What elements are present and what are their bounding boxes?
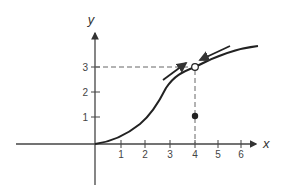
x-tick-label: 2 (142, 149, 148, 160)
y-tick-label: 2 (82, 87, 88, 98)
diagram-canvas: 1 2 3 4 5 6 1 2 3 x y (0, 0, 281, 192)
filled-dot-point (192, 113, 198, 119)
y-tick-label: 1 (82, 112, 88, 123)
x-axis-label: x (262, 136, 270, 151)
open-circle-point (192, 64, 199, 71)
sigmoid-curve (95, 46, 258, 144)
x-tick-label: 1 (118, 149, 124, 160)
y-axis-label: y (87, 12, 96, 27)
x-tick-label: 3 (167, 149, 173, 160)
x-tick-label: 5 (215, 149, 221, 160)
x-tick-label: 4 (192, 149, 198, 160)
y-tick-label: 3 (82, 62, 88, 73)
x-tick-label: 6 (238, 149, 244, 160)
